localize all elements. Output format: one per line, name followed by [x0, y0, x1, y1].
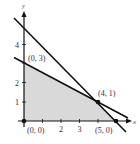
- tick-label-x2: 2: [59, 125, 63, 134]
- x-axis-arrow-icon: [126, 119, 132, 124]
- vertex-4-1: [96, 100, 101, 105]
- vertex-0-0: [22, 119, 27, 124]
- feasible-region-chart: y x 2 3 1 2 4 (0, 3) (4, 1) (0, 0) (5, 0…: [0, 0, 140, 144]
- tick-label-y2: 2: [15, 79, 19, 88]
- y-axis-arrow-icon: [22, 11, 27, 17]
- point-label-5-0: (5, 0): [95, 126, 113, 135]
- x-axis-label: x: [132, 118, 137, 126]
- point-label-0-3: (0, 3): [28, 54, 46, 63]
- tick-label-y4: 4: [15, 41, 19, 50]
- point-label-0-0: (0, 0): [27, 126, 45, 135]
- y-axis-label: y: [21, 2, 26, 10]
- tick-label-x3: 3: [78, 125, 82, 134]
- tick-label-y1: 1: [15, 98, 19, 107]
- point-label-4-1: (4, 1): [98, 89, 116, 98]
- vertex-5-0: [114, 119, 119, 124]
